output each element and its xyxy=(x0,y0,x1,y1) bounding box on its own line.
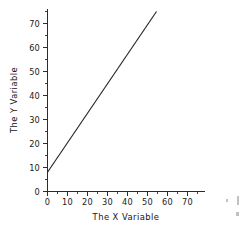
x-tick-label: 20 xyxy=(82,197,93,207)
chart-figure: 0 10 20 30 40 50 60 70 0 10 20 30 40 50 … xyxy=(0,0,242,232)
y-tick-label: 60 xyxy=(29,43,40,53)
x-tick-labels: 0 10 20 30 40 50 60 70 xyxy=(45,197,193,207)
y-tick-label: 70 xyxy=(29,19,40,29)
data-series-group xyxy=(48,12,157,173)
y-tick-label: 40 xyxy=(29,91,40,101)
y-tick-label: 10 xyxy=(29,163,40,173)
x-tick-label: 70 xyxy=(182,197,193,207)
x-tick-label: 50 xyxy=(142,197,153,207)
x-tick-label: 30 xyxy=(102,197,113,207)
x-tick-label: 10 xyxy=(62,197,73,207)
edge-artifact-mark xyxy=(226,199,228,202)
edge-artifact-mark xyxy=(236,212,239,216)
x-tick-label: 40 xyxy=(122,197,133,207)
series-line-segment xyxy=(48,12,157,173)
x-tick-label: 0 xyxy=(45,197,50,207)
y-axis-label: The Y Variable xyxy=(9,67,19,134)
y-tick-labels: 0 10 20 30 40 50 60 70 xyxy=(29,19,40,197)
y-tick-label: 50 xyxy=(29,67,40,77)
line-chart: 0 10 20 30 40 50 60 70 0 10 20 30 40 50 … xyxy=(0,0,242,232)
y-tick-label: 0 xyxy=(35,187,40,197)
x-axis-ticks xyxy=(48,192,198,197)
edge-artifact-mark xyxy=(237,196,239,205)
axes-group xyxy=(47,9,205,192)
x-axis-label: The X Variable xyxy=(92,212,160,222)
y-tick-label: 20 xyxy=(29,139,40,149)
y-axis-ticks xyxy=(43,12,48,192)
y-tick-label: 30 xyxy=(29,115,40,125)
x-tick-label: 60 xyxy=(162,197,173,207)
